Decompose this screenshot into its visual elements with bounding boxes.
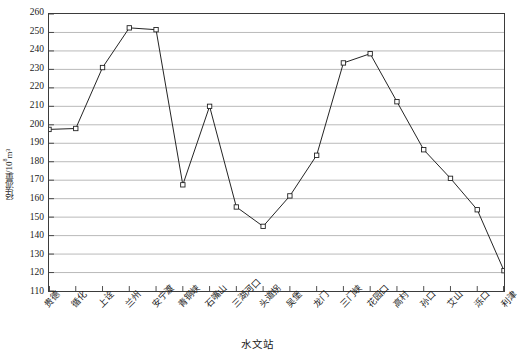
x-axis-title: 水文站	[0, 336, 514, 351]
y-axis-tick-label: 160	[18, 194, 44, 204]
data-point-marker	[49, 127, 51, 131]
data-point-marker	[368, 52, 372, 56]
data-point-marker	[261, 224, 265, 228]
y-axis-tick-label: 240	[18, 45, 44, 55]
plot-svg	[49, 14, 504, 291]
data-point-marker	[341, 61, 345, 65]
x-axis-tick-label: 泺口	[472, 289, 492, 309]
gridlines	[49, 14, 504, 291]
y-axis-tick-label: 170	[18, 175, 44, 185]
y-axis-tick-label: 130	[18, 250, 44, 260]
y-axis-tick-label: 230	[18, 64, 44, 74]
y-axis-tick-label: 200	[18, 120, 44, 130]
data-point-marker	[234, 205, 238, 209]
x-axis-tick-label: 循化	[69, 289, 89, 309]
data-point-marker	[314, 153, 318, 157]
y-axis-title-exponent: 8	[2, 158, 8, 161]
data-series-line	[49, 28, 504, 271]
data-point-marker	[207, 104, 211, 108]
data-point-marker	[502, 269, 504, 273]
plot-area	[48, 13, 505, 292]
x-axis-tick-label: 吴堡	[284, 289, 304, 309]
x-axis-tick-label: 贵德	[42, 289, 62, 309]
y-axis-tick-label: 120	[18, 268, 44, 278]
y-axis-tick-label: 190	[18, 138, 44, 148]
data-point-marker	[448, 176, 452, 180]
data-point-marker	[181, 183, 185, 187]
x-axis-tick-label: 上诠	[96, 289, 116, 309]
x-axis-tick-label: 孙口	[418, 289, 438, 309]
data-point-marker	[422, 148, 426, 152]
x-axis-tick-label: 高村	[391, 289, 411, 309]
data-point-marker	[74, 126, 78, 130]
data-point-marker	[154, 28, 158, 32]
y-axis-tick-label: 180	[18, 157, 44, 167]
y-axis-title-text: 径流量/10	[4, 161, 14, 200]
y-axis-title-unit: m³	[4, 148, 14, 158]
data-point-marker	[475, 208, 479, 212]
y-axis-tick-label: 150	[18, 213, 44, 223]
y-axis-tick-label: 210	[18, 101, 44, 111]
x-axis-tick-label: 兰州	[123, 289, 143, 309]
data-point-marker	[288, 194, 292, 198]
x-axis-tick-label: 龙门	[311, 289, 331, 309]
y-axis-tick-label: 250	[18, 27, 44, 37]
y-axis-tick-label: 220	[18, 82, 44, 92]
y-axis-tick-label: 140	[18, 231, 44, 241]
data-point-marker	[127, 26, 131, 30]
x-axis-tick-label: 利津	[499, 289, 519, 309]
y-axis-tick-label: 260	[18, 8, 44, 18]
x-axis-tick-label: 艾山	[445, 289, 465, 309]
data-point-marker	[100, 65, 104, 69]
data-point-marker	[395, 100, 399, 104]
